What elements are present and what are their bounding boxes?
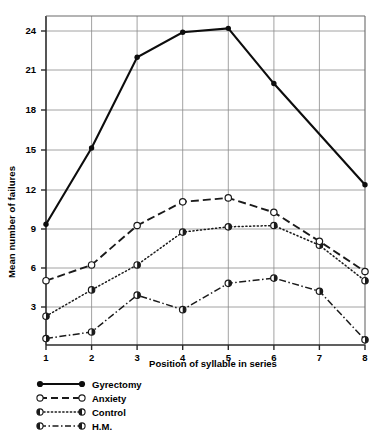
data-point-marker: [271, 209, 277, 215]
y-tick-label-24: 24: [16, 25, 36, 36]
data-point-marker: [225, 195, 231, 201]
dotted-half-circle-key: [34, 406, 88, 418]
data-point-marker: [134, 55, 139, 60]
chart-figure: 24 21 18 15 12 9 6 3 1 2 3 4 5 6 7 8 Mea…: [0, 0, 384, 437]
line-chart-plot: [0, 0, 384, 437]
y-tick-label-3: 3: [16, 301, 36, 312]
data-point-marker: [226, 26, 231, 31]
data-point-marker: [134, 222, 140, 228]
legend-item-gyrectomy: Gyrectomy: [34, 377, 234, 391]
data-point-marker: [362, 268, 368, 274]
data-point-marker: [362, 182, 367, 187]
legend-label-gyrectomy: Gyrectomy: [92, 379, 142, 390]
data-point-marker: [89, 145, 94, 150]
legend-label-hm: H.M.: [92, 421, 112, 432]
legend-item-control: Control: [34, 405, 234, 419]
x-axis-title: Position of syllable in series: [0, 358, 384, 369]
chart-legend: Gyrectomy Anxiety Control: [34, 377, 234, 433]
legend-item-hm: H.M.: [34, 419, 234, 433]
y-axis-title-wrap: Mean number of failures: [4, 120, 22, 280]
data-point-marker: [43, 222, 48, 227]
data-point-marker: [271, 81, 276, 86]
legend-item-anxiety: Anxiety: [34, 391, 234, 405]
y-tick-label-21: 21: [16, 64, 36, 75]
data-point-marker: [88, 262, 94, 268]
data-point-marker: [316, 238, 322, 244]
data-point-marker: [43, 278, 49, 284]
dashdot-half-circle-key: [34, 420, 88, 432]
dashed-open-circle-key: [34, 392, 88, 404]
solid-filled-circle-key: [34, 378, 88, 390]
y-axis-title: Mean number of failures: [6, 166, 17, 278]
data-point-marker: [180, 199, 186, 205]
legend-label-control: Control: [92, 407, 126, 418]
legend-label-anxiety: Anxiety: [92, 393, 126, 404]
data-point-marker: [180, 30, 185, 35]
y-tick-label-18: 18: [16, 104, 36, 115]
